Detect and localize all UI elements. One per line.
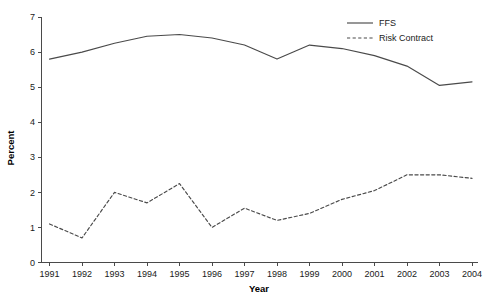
y-tick-label: 3 bbox=[30, 152, 35, 162]
x-tick-label: 2003 bbox=[429, 269, 449, 279]
x-tick-label: 1996 bbox=[202, 269, 222, 279]
legend-label-ffs: FFS bbox=[379, 18, 396, 28]
x-tick-label: 1995 bbox=[169, 269, 189, 279]
x-tick-label: 2004 bbox=[462, 269, 482, 279]
x-tick-label: 1998 bbox=[267, 269, 287, 279]
series-line-risk-contract bbox=[50, 175, 473, 238]
series-group bbox=[50, 35, 473, 238]
line-chart: 01234567 Percent 19911992199319941995199… bbox=[0, 0, 486, 303]
y-tick-group: 01234567 bbox=[30, 12, 42, 268]
x-tick-label: 1992 bbox=[72, 269, 92, 279]
y-tick-label: 4 bbox=[30, 117, 35, 127]
x-tick-label: 2000 bbox=[332, 269, 352, 279]
legend-label-risk-contract: Risk Contract bbox=[379, 33, 434, 43]
x-tick-label: 2002 bbox=[397, 269, 417, 279]
chart-legend: FFSRisk Contract bbox=[347, 18, 434, 43]
x-tick-group: 1991199219931994199519961997199819992000… bbox=[39, 263, 482, 279]
x-tick-label: 1994 bbox=[137, 269, 157, 279]
x-tick-label: 1993 bbox=[104, 269, 124, 279]
x-tick-label: 1999 bbox=[299, 269, 319, 279]
y-tick-label: 6 bbox=[30, 47, 35, 57]
y-tick-label: 1 bbox=[30, 223, 35, 233]
x-tick-label: 2001 bbox=[364, 269, 384, 279]
figure-footnote bbox=[22, 298, 468, 303]
y-tick-label: 0 bbox=[30, 258, 35, 268]
x-axis-title: Year bbox=[249, 283, 269, 294]
chart-container: 01234567 Percent 19911992199319941995199… bbox=[0, 0, 486, 303]
y-axis-title: Percent bbox=[5, 130, 16, 166]
y-tick-label: 5 bbox=[30, 82, 35, 92]
x-axis: 1991199219931994199519961997199819992000… bbox=[39, 263, 482, 295]
x-tick-label: 1997 bbox=[234, 269, 254, 279]
x-tick-label: 1991 bbox=[39, 269, 59, 279]
y-tick-label: 2 bbox=[30, 188, 35, 198]
y-tick-label: 7 bbox=[30, 12, 35, 22]
y-axis: 01234567 Percent bbox=[5, 12, 42, 268]
